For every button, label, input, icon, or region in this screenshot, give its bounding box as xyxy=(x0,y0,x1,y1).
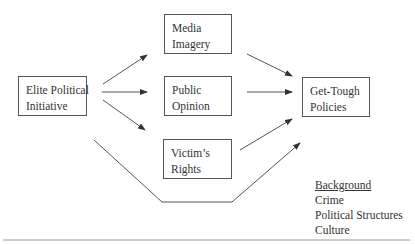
background-item-political-structures: Political Structures xyxy=(315,208,403,223)
node-label-line2: Initiative xyxy=(26,98,86,114)
node-label-line2: Imagery xyxy=(172,36,231,52)
node-label-line2: Opinion xyxy=(172,98,231,114)
background-item-crime: Crime xyxy=(315,193,403,208)
node-victims-rights: Victim’s Rights xyxy=(163,139,232,179)
background-legend: Background Crime Political Structures Cu… xyxy=(315,178,403,238)
node-elite-political-initiative: Elite Political Initiative xyxy=(18,76,87,116)
node-media-imagery: Media Imagery xyxy=(164,14,232,54)
arrow-victims-to-policies xyxy=(240,119,292,150)
diagram-canvas: Elite Political Initiative Media Imagery… xyxy=(0,0,415,244)
arrow-media-to-policies xyxy=(247,54,292,76)
background-item-culture: Culture xyxy=(315,223,403,238)
node-public-opinion: Public Opinion xyxy=(164,76,232,116)
node-get-tough-policies: Get-Tough Policies xyxy=(302,77,370,117)
node-label-line2: Policies xyxy=(310,99,369,115)
node-label-line1: Elite Political xyxy=(26,82,86,98)
node-label-line1: Get-Tough xyxy=(310,83,369,99)
node-label-line1: Public xyxy=(172,82,231,98)
node-label-line1: Media xyxy=(172,20,231,36)
arrow-elite-to-victims xyxy=(103,100,145,130)
background-legend-title: Background xyxy=(315,178,403,193)
node-label-line1: Victim’s xyxy=(171,145,231,161)
node-label-line2: Rights xyxy=(171,161,231,177)
arrow-elite-to-media xyxy=(103,55,147,84)
